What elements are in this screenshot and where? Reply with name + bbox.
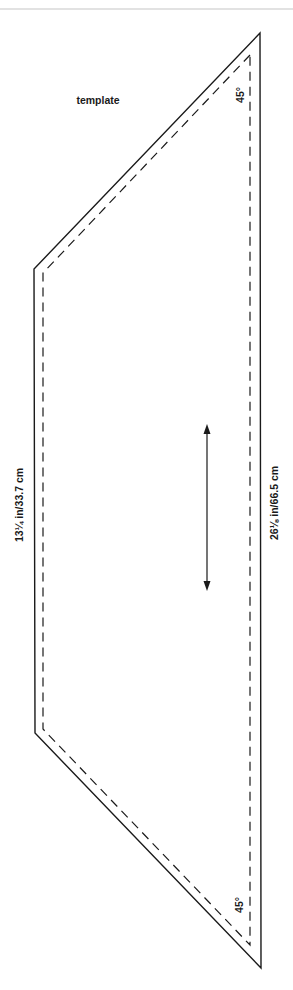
angle-label-bottom: 45° [233, 897, 245, 913]
diagram-title: template [76, 94, 119, 106]
template-diagram: template 45° 45° 13¼ in/33.7 cm 26⅛ in/6… [0, 0, 293, 990]
grainline-arrow-icon [204, 424, 211, 591]
seam-line-dashed [43, 55, 250, 945]
short-side-measurement: 13¼ in/33.7 cm [13, 468, 25, 542]
outer-cut-line [34, 33, 261, 968]
long-side-measurement: 26⅛ in/66.5 cm [268, 466, 280, 540]
angle-label-top: 45° [234, 87, 246, 103]
